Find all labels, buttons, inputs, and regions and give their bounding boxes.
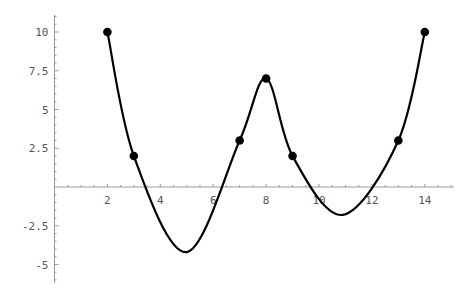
x-tick-label: 4: [157, 194, 164, 207]
data-point: [235, 136, 244, 145]
x-tick-label: 2: [104, 194, 111, 207]
y-tick-label: 2.5: [29, 142, 49, 155]
y-tick-label: -2.5: [22, 220, 49, 233]
y-tick-label: -5: [35, 259, 48, 272]
data-point: [421, 28, 430, 37]
x-tick-label: 14: [418, 194, 432, 207]
y-axis-tick-labels: -5-2.52.557.510: [22, 26, 49, 272]
data-points: [103, 28, 429, 161]
chart: 2468101214 -5-2.52.557.510: [0, 0, 476, 293]
y-tick-label: 10: [35, 26, 48, 39]
y-tick-label: 7.5: [29, 65, 49, 78]
data-point: [103, 28, 112, 37]
data-point: [288, 152, 297, 161]
interpolating-curve: [107, 32, 424, 252]
data-point: [130, 152, 139, 161]
y-tick-label: 5: [42, 104, 49, 117]
data-point: [262, 74, 271, 83]
x-tick-label: 8: [263, 194, 270, 207]
data-point: [394, 136, 403, 145]
